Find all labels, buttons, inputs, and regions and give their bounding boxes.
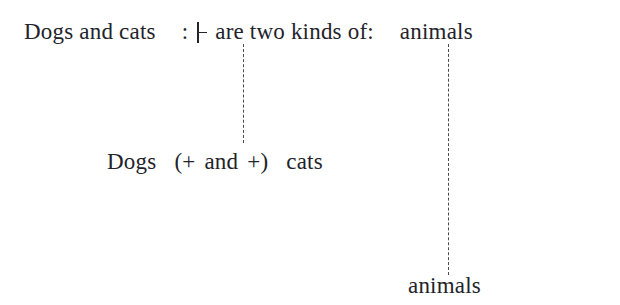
bottom-decomposition-line: animals xyxy=(408,272,481,300)
middle-decomposition-line: Dogs(+and+)cats xyxy=(107,148,323,176)
top-sentence-line: Dogs and cats:are two kinds of:animals xyxy=(24,18,473,46)
turnstile-icon xyxy=(196,22,207,43)
object-phrase: animals xyxy=(400,18,473,46)
subject-phrase: Dogs and cats xyxy=(24,18,156,46)
middle-word-and: and xyxy=(204,148,238,176)
left-connector-line xyxy=(243,44,244,143)
middle-word-cats: cats xyxy=(286,148,323,176)
right-connector-line xyxy=(448,44,449,275)
colon-separator: : xyxy=(182,18,189,46)
close-paren-plus: +) xyxy=(246,148,269,176)
linguistic-decomposition-figure: Dogs and cats:are two kinds of:animals D… xyxy=(0,0,620,305)
middle-word-dogs: Dogs xyxy=(107,148,156,176)
open-paren-plus: (+ xyxy=(173,148,196,176)
predicate-phrase: are two kinds of: xyxy=(215,18,374,46)
bottom-word-animals: animals xyxy=(408,272,481,300)
